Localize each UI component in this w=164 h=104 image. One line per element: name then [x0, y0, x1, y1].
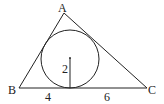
segment-label-right: 6 [104, 90, 110, 104]
vertex-label-c: C [148, 83, 156, 97]
incircle-diagram: A B C 2 4 6 [0, 0, 164, 104]
incircle-center [69, 57, 71, 59]
radius-label: 2 [62, 62, 68, 76]
segment-label-left: 4 [45, 90, 51, 104]
triangle-abc [19, 13, 147, 88]
vertex-label-b: B [8, 83, 16, 97]
vertex-label-a: A [58, 1, 67, 15]
